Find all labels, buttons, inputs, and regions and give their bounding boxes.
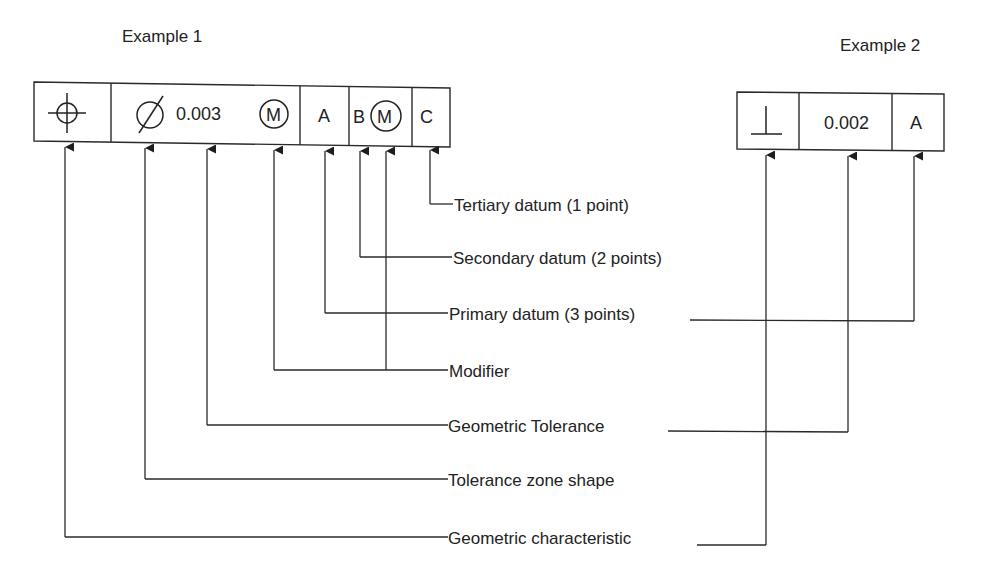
example2-title: Example 2: [840, 36, 920, 56]
perpendicularity-icon: [751, 106, 782, 134]
callout-tolerance-zone-shape: Tolerance zone shape: [448, 471, 614, 491]
example2-tolerance-value: 0.002: [824, 112, 869, 134]
example1-title: Example 1: [122, 27, 202, 47]
callout-primary-datum: Primary datum (3 points): [449, 305, 635, 325]
example1-secondary-modifier: M: [377, 106, 392, 128]
callout-geometric-tolerance: Geometric Tolerance: [448, 417, 605, 437]
example2-leaders: [668, 155, 914, 545]
position-icon: [48, 93, 86, 133]
example1-secondary-datum: B: [353, 106, 365, 128]
callout-secondary-datum: Secondary datum (2 points): [453, 249, 662, 269]
example2-primary-datum: A: [910, 112, 922, 134]
example1-tolerance-modifier: M: [266, 104, 281, 126]
example1-leaders: [65, 147, 453, 537]
callout-modifier: Modifier: [449, 362, 509, 382]
callout-geometric-characteristic: Geometric characteristic: [448, 529, 631, 549]
example1-tolerance-value: 0.003: [176, 103, 221, 125]
example1-tertiary-datum: C: [420, 106, 433, 128]
example1-primary-datum: A: [318, 105, 330, 127]
callout-tertiary-datum: Tertiary datum (1 point): [454, 196, 629, 216]
diameter-icon: [137, 96, 163, 133]
